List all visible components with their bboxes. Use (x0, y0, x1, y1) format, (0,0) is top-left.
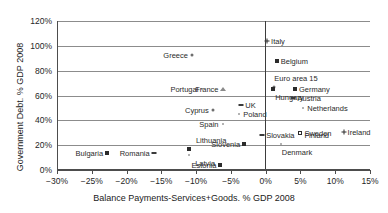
data-point-denmark (280, 143, 282, 145)
point-label-cyprus: Cyprus (185, 106, 209, 115)
data-point-netherlands (302, 107, 304, 109)
x-tick (370, 170, 371, 174)
point-label-france: France (195, 85, 218, 94)
x-tick (161, 170, 162, 174)
x-tick-label: −25% (81, 176, 103, 186)
data-point-latvia (188, 154, 190, 156)
data-point-bulgaria (105, 151, 109, 155)
zero-reference-line (265, 21, 266, 170)
data-point-cyprus (211, 109, 214, 112)
x-tick-label: −5% (222, 176, 239, 186)
data-point-hungary (271, 87, 275, 91)
plot-area: ItalyGreeceBelgiumEuro area 15HungaryPor… (57, 21, 370, 170)
data-point-sweden (298, 131, 302, 135)
x-tick-label: 5% (294, 176, 306, 186)
data-point-france (220, 87, 226, 91)
x-tick-label: 15% (361, 176, 378, 186)
x-tick (300, 170, 301, 174)
x-axis-line (57, 169, 370, 170)
x-tick (266, 170, 267, 174)
gridline-100 (57, 46, 370, 47)
scatter-chart: ItalyGreeceBelgiumEuro area 15HungaryPor… (0, 0, 388, 213)
data-point-lithuania (187, 147, 191, 151)
point-label-greece: Greece (163, 50, 188, 59)
point-label-bulgaria: Bulgaria (76, 148, 104, 157)
point-label-uk: UK (245, 101, 255, 110)
x-tick-label: −30% (46, 176, 68, 186)
x-tick-label: −20% (116, 176, 138, 186)
x-tick-label: −15% (150, 176, 172, 186)
point-label-slovakia: Slovakia (266, 131, 294, 140)
gridline-60 (57, 96, 370, 97)
gridline-80 (57, 71, 370, 72)
point-label-euro-area-15: Euro area 15 (274, 73, 317, 82)
point-label-finland: Finland (304, 131, 329, 140)
y-axis-line (57, 21, 58, 170)
x-axis-title: Balance Payments-Services+Goods. % GDP 2… (0, 193, 388, 203)
x-tick (335, 170, 336, 174)
data-point-ireland (341, 129, 346, 134)
data-point-germany (293, 87, 297, 91)
point-label-lithuania: Lithuania (196, 135, 226, 144)
x-tick (196, 170, 197, 174)
point-label-portugal: Portugal (170, 85, 198, 94)
x-tick-label: 10% (327, 176, 344, 186)
x-tick (231, 170, 232, 174)
point-label-netherlands: Netherlands (307, 103, 347, 112)
data-point-poland (238, 113, 240, 115)
point-label-romania: Romania (120, 148, 150, 157)
data-point-romania (151, 152, 156, 154)
point-label-italy: Italy (271, 36, 285, 45)
data-point-uk (239, 104, 244, 106)
y-axis-title: Government Debt. % GDP 2008 (15, 32, 25, 182)
gridline-0 (57, 170, 370, 171)
data-point-slovakia (260, 134, 265, 136)
x-tick (127, 170, 128, 174)
data-point-slovenia (242, 142, 246, 146)
x-tick (57, 170, 58, 174)
data-point-estonia (218, 163, 222, 167)
y-tick-label: 120% (20, 16, 52, 26)
point-label-belgium: Belgium (281, 56, 308, 65)
data-point-greece (190, 53, 193, 56)
x-tick (92, 170, 93, 174)
point-label-ireland: Ireland (348, 127, 371, 136)
data-point-spain (222, 123, 224, 125)
point-label-denmark: Denmark (282, 147, 312, 156)
point-label-poland: Poland (243, 110, 266, 119)
point-label-austria: Austria (297, 93, 320, 102)
x-tick-label: 0% (260, 176, 272, 186)
point-label-germany: Germany (299, 85, 330, 94)
gridline-120 (57, 21, 370, 22)
data-point-belgium (275, 59, 279, 63)
x-tick-label: −10% (185, 176, 207, 186)
point-label-spain: Spain (199, 120, 218, 129)
data-point-austria (291, 97, 296, 99)
